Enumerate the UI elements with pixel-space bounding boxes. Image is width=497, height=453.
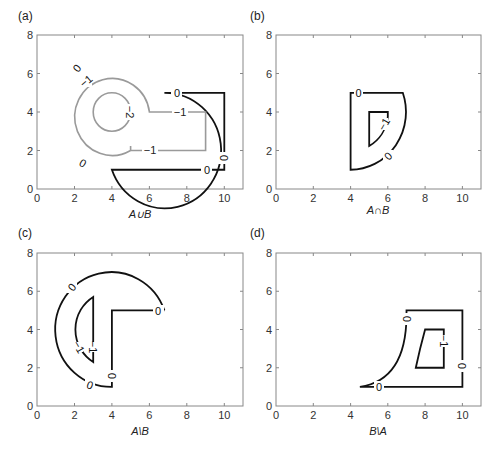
svg-text:−1: −1 bbox=[77, 72, 94, 89]
svg-text:8: 8 bbox=[422, 409, 428, 421]
svg-text:0: 0 bbox=[106, 373, 118, 379]
x-axis-label: B\A bbox=[369, 425, 387, 437]
svg-text:8: 8 bbox=[27, 247, 33, 259]
svg-text:0: 0 bbox=[401, 316, 413, 322]
svg-text:0: 0 bbox=[355, 87, 361, 99]
axes-frame bbox=[37, 253, 243, 406]
svg-text:8: 8 bbox=[184, 409, 190, 421]
svg-text:2: 2 bbox=[27, 362, 33, 374]
y-tick-labels: 0 2 4 6 8 bbox=[266, 247, 272, 412]
panel-b: 0 2 4 6 8 10 0 2 4 6 8 A∩B 0 0 −1 bbox=[266, 29, 481, 216]
svg-text:2: 2 bbox=[266, 362, 272, 374]
svg-text:10: 10 bbox=[218, 409, 230, 421]
svg-text:0: 0 bbox=[27, 400, 33, 412]
svg-text:0: 0 bbox=[266, 400, 272, 412]
svg-text:2: 2 bbox=[310, 192, 316, 204]
svg-text:4: 4 bbox=[348, 192, 354, 204]
svg-text:2: 2 bbox=[71, 409, 77, 421]
y-tick-labels: 0 2 4 6 8 bbox=[266, 29, 272, 195]
svg-text:10: 10 bbox=[456, 409, 468, 421]
svg-text:4: 4 bbox=[109, 409, 115, 421]
svg-text:2: 2 bbox=[27, 145, 33, 157]
svg-text:2: 2 bbox=[310, 409, 316, 421]
svg-text:4: 4 bbox=[109, 192, 115, 204]
svg-text:6: 6 bbox=[266, 68, 272, 80]
svg-text:4: 4 bbox=[27, 324, 33, 336]
contour-labels: 0 0 0 0 −1 −1 bbox=[65, 281, 164, 392]
svg-text:0: 0 bbox=[34, 409, 40, 421]
contour-figure: 0 2 4 6 8 10 0 2 4 6 8 A∪B 0 0 0 bbox=[0, 0, 497, 453]
svg-text:0: 0 bbox=[174, 87, 180, 99]
svg-text:8: 8 bbox=[422, 192, 428, 204]
svg-text:6: 6 bbox=[27, 285, 33, 297]
svg-text:6: 6 bbox=[146, 409, 152, 421]
svg-text:6: 6 bbox=[27, 68, 33, 80]
svg-text:2: 2 bbox=[71, 192, 77, 204]
y-ticks bbox=[276, 291, 481, 368]
svg-text:6: 6 bbox=[266, 285, 272, 297]
svg-text:0: 0 bbox=[273, 192, 279, 204]
x-tick-labels: 0 2 4 6 8 10 bbox=[34, 409, 230, 421]
svg-text:10: 10 bbox=[456, 192, 468, 204]
x-axis-label: A∩B bbox=[366, 204, 390, 216]
svg-text:0: 0 bbox=[34, 192, 40, 204]
svg-text:8: 8 bbox=[266, 29, 272, 41]
svg-text:−1: −1 bbox=[71, 339, 88, 356]
svg-text:0: 0 bbox=[204, 164, 210, 176]
svg-text:8: 8 bbox=[27, 29, 33, 41]
svg-text:8: 8 bbox=[266, 247, 272, 259]
panel-d: 0 2 4 6 8 10 0 2 4 6 8 B\A 0 0 0 −1 bbox=[266, 247, 481, 437]
svg-text:0: 0 bbox=[376, 381, 382, 393]
x-axis-label: A\B bbox=[130, 425, 149, 437]
svg-text:0: 0 bbox=[218, 155, 230, 161]
svg-text:−1: −1 bbox=[438, 335, 450, 348]
y-tick-labels: 0 2 4 6 8 bbox=[27, 247, 33, 412]
x-tick-labels: 0 2 4 6 8 10 bbox=[273, 409, 469, 421]
svg-text:0: 0 bbox=[27, 183, 33, 195]
x-tick-labels: 0 2 4 6 8 10 bbox=[273, 192, 469, 204]
svg-text:−2: −2 bbox=[124, 106, 136, 119]
svg-text:6: 6 bbox=[146, 192, 152, 204]
contour-labels: 0 0 0 −1 bbox=[374, 313, 468, 393]
panel-c: 0 2 4 6 8 10 0 2 4 6 8 A\B 0 0 0 0 bbox=[27, 247, 243, 437]
y-ticks bbox=[37, 291, 243, 368]
svg-text:−1: −1 bbox=[144, 144, 157, 156]
svg-text:4: 4 bbox=[27, 106, 33, 118]
svg-text:0: 0 bbox=[456, 363, 468, 369]
svg-text:−1: −1 bbox=[376, 116, 393, 133]
svg-text:−1: −1 bbox=[87, 341, 99, 354]
svg-text:0: 0 bbox=[155, 305, 161, 317]
svg-text:6: 6 bbox=[385, 409, 391, 421]
y-tick-labels: 0 2 4 6 8 bbox=[27, 29, 33, 195]
panel-a: 0 2 4 6 8 10 0 2 4 6 8 A∪B 0 0 0 bbox=[27, 29, 243, 220]
svg-text:6: 6 bbox=[385, 192, 391, 204]
svg-text:4: 4 bbox=[266, 324, 272, 336]
contour-labels: 0 0 −1 bbox=[354, 87, 394, 162]
svg-text:2: 2 bbox=[266, 145, 272, 157]
svg-text:10: 10 bbox=[218, 192, 230, 204]
svg-text:0: 0 bbox=[273, 409, 279, 421]
svg-text:4: 4 bbox=[266, 106, 272, 118]
x-axis-label: A∪B bbox=[128, 208, 152, 220]
svg-text:−1: −1 bbox=[174, 106, 187, 118]
y-ticks bbox=[37, 74, 243, 151]
svg-text:0: 0 bbox=[266, 183, 272, 195]
contour-level-0 bbox=[351, 93, 406, 170]
svg-text:4: 4 bbox=[348, 409, 354, 421]
x-ticks bbox=[75, 253, 225, 406]
axes-frame bbox=[37, 35, 243, 189]
